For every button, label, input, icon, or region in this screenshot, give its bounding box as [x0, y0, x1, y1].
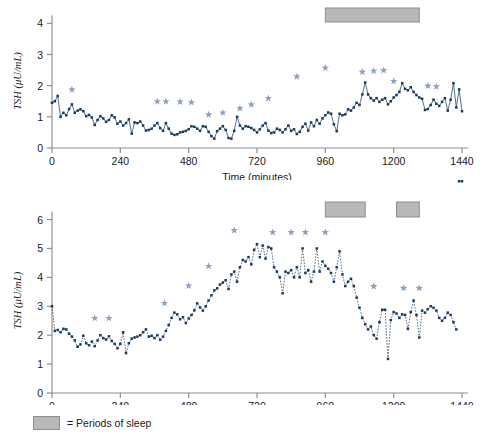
data-point-marker	[421, 309, 424, 312]
x-tick-label: 240	[112, 400, 130, 405]
y-axis-title: TSH (μU/mL)	[12, 271, 24, 329]
data-point-marker	[347, 280, 350, 283]
data-point-marker	[333, 280, 336, 283]
data-point-marker	[233, 270, 236, 273]
y-tick-label: 3	[37, 300, 43, 312]
data-point-marker	[384, 97, 387, 100]
data-point-marker	[105, 121, 108, 124]
data-point-marker	[133, 336, 136, 339]
data-point-marker	[392, 96, 395, 99]
data-point-marker	[159, 127, 162, 130]
data-point-marker	[290, 269, 293, 272]
sleep-period-bar	[325, 202, 365, 217]
data-point-marker	[378, 101, 381, 104]
data-point-marker	[113, 116, 116, 119]
pulse-star-marker	[105, 314, 112, 321]
data-point-marker	[130, 337, 133, 340]
data-point-marker	[253, 129, 256, 132]
data-point-marker	[350, 278, 353, 281]
data-point-marker	[51, 305, 54, 308]
data-point-marker	[96, 119, 99, 122]
data-point-marker	[239, 124, 242, 127]
data-point-marker	[79, 343, 82, 346]
data-point-marker	[367, 328, 370, 331]
pulse-star-marker	[68, 86, 75, 93]
pulse-star-marker	[176, 98, 183, 105]
data-point-marker	[62, 328, 64, 331]
data-point-marker	[122, 331, 125, 334]
data-point-marker	[182, 131, 185, 134]
data-point-marker	[372, 99, 375, 102]
chart-svg-subject-b: 0123456024048072096012001440Time (minute…	[0, 180, 500, 405]
data-point-marker	[216, 287, 219, 290]
pulse-star-marker	[400, 284, 407, 291]
data-point-marker	[441, 319, 444, 322]
data-point-marker	[307, 269, 310, 272]
data-point-marker	[421, 98, 424, 101]
data-point-marker	[62, 112, 64, 115]
data-point-marker	[236, 280, 239, 283]
y-axis-title: TSH (μU/mL)	[12, 52, 24, 110]
data-point-marker	[59, 116, 62, 119]
data-point-marker	[301, 126, 304, 128]
data-point-marker	[119, 120, 122, 123]
data-point-marker	[71, 335, 74, 338]
data-point-marker	[85, 342, 88, 345]
data-point-marker	[187, 317, 190, 320]
data-point-marker	[167, 324, 170, 327]
data-point-marker	[68, 332, 71, 335]
data-point-marker	[128, 118, 131, 121]
data-point-marker	[353, 106, 356, 109]
data-point-marker	[313, 270, 316, 273]
data-point-marker	[364, 81, 367, 84]
data-point-marker	[410, 86, 413, 89]
data-point-marker	[227, 288, 230, 291]
data-point-marker	[298, 276, 301, 279]
data-point-marker	[51, 102, 54, 105]
chart-panel-subject-a: 01234024048072096012001440Time (minutes)…	[0, 0, 500, 180]
data-point-marker	[418, 96, 421, 99]
data-point-marker	[296, 133, 299, 136]
data-point-marker	[418, 336, 421, 339]
data-point-marker	[261, 124, 264, 127]
data-point-marker	[449, 98, 452, 101]
data-point-marker	[293, 128, 296, 131]
data-point-marker	[153, 124, 156, 127]
data-point-marker	[361, 93, 364, 96]
sleep-period-swatch-icon	[33, 416, 60, 430]
data-point-marker	[267, 129, 270, 132]
pulse-star-marker	[416, 284, 423, 291]
x-tick-label: 960	[317, 155, 335, 167]
data-point-marker	[88, 344, 91, 347]
data-point-marker	[276, 270, 279, 273]
data-point-marker	[202, 309, 205, 312]
tsh-circadian-figure: 01234024048072096012001440Time (minutes)…	[0, 0, 500, 448]
data-point-marker	[148, 335, 151, 338]
data-point-marker	[148, 129, 151, 132]
data-point-marker	[444, 97, 447, 100]
chart-panel-subject-b: 0123456024048072096012001440Time (minute…	[0, 180, 500, 405]
data-point-marker	[444, 317, 447, 320]
data-point-marker	[54, 330, 57, 333]
data-point-marker	[344, 285, 347, 288]
chart-svg-subject-a: 01234024048072096012001440Time (minutes)…	[0, 0, 500, 180]
data-point-marker	[404, 88, 407, 91]
data-point-marker	[355, 102, 358, 105]
data-point-marker	[264, 257, 267, 260]
data-point-marker	[210, 135, 213, 138]
pulse-star-marker	[236, 104, 243, 111]
data-point-marker	[341, 273, 344, 276]
data-point-marker	[310, 280, 313, 283]
y-tick-label: 1	[37, 111, 43, 123]
data-point-marker	[447, 311, 450, 314]
data-point-marker	[190, 125, 193, 128]
pulse-star-marker	[322, 228, 329, 235]
data-point-marker	[222, 125, 225, 128]
data-point-marker	[165, 330, 168, 333]
data-point-marker	[259, 128, 262, 131]
data-point-marker	[93, 345, 96, 348]
data-point-marker	[227, 137, 230, 140]
data-point-marker	[447, 109, 450, 112]
data-point-marker	[412, 299, 415, 302]
data-point-marker	[415, 314, 418, 317]
